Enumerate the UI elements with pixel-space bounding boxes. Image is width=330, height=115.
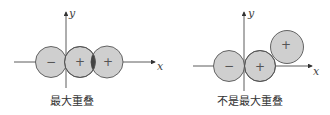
- sign-positive: +: [281, 38, 291, 52]
- y-axis-label: y: [68, 7, 76, 20]
- sign-positive: +: [255, 60, 265, 74]
- sign-positive: +: [103, 55, 113, 69]
- caption-max-overlap: 最大重叠: [50, 92, 94, 108]
- sign-negative: −: [224, 59, 234, 73]
- sign-positive: +: [75, 55, 85, 69]
- y-axis-label: y: [247, 7, 255, 20]
- x-axis-label: x: [157, 60, 164, 73]
- diagram-max-overlap: − + + x y: [14, 7, 164, 88]
- sign-negative: −: [46, 55, 56, 69]
- diagram-not-max-overlap: − + + x y: [193, 7, 320, 91]
- caption-not-max-overlap: 不是最大重叠: [217, 92, 283, 108]
- x-axis-label: x: [313, 65, 320, 78]
